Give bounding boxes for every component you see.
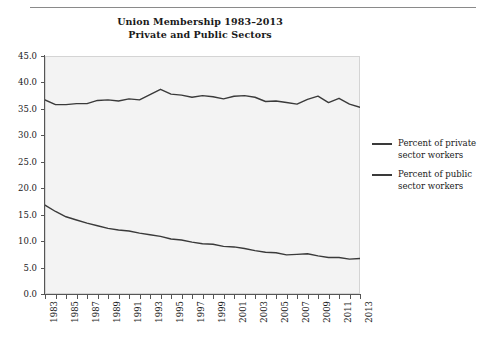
y-tick-label: 30.0 <box>18 130 37 140</box>
x-tick-mark <box>98 295 99 299</box>
x-tick-label: 2011 <box>343 301 353 323</box>
x-tick-mark <box>171 295 172 299</box>
chart-title: Union Membership 1983–2013 Private and P… <box>0 16 400 41</box>
x-tick-mark <box>56 295 57 299</box>
x-tick-label: 2001 <box>238 301 248 323</box>
x-tick-label: 1983 <box>49 301 59 323</box>
y-tick-mark <box>41 135 45 136</box>
y-tick-mark <box>41 188 45 189</box>
y-tick-label: 5.0 <box>23 263 37 273</box>
y-tick-label: 40.0 <box>18 77 37 87</box>
series-lines <box>45 56 360 294</box>
x-tick-label: 1991 <box>133 301 143 323</box>
y-tick-mark <box>41 56 45 57</box>
x-tick-mark <box>350 295 351 299</box>
x-tick-mark <box>119 295 120 299</box>
legend-item-public: Percent of public sector workers <box>372 169 482 192</box>
x-tick-mark <box>108 295 109 299</box>
x-tick-mark <box>87 295 88 299</box>
x-tick-mark <box>245 295 246 299</box>
x-tick-mark <box>287 295 288 299</box>
x-tick-mark <box>255 295 256 299</box>
y-tick-mark <box>41 82 45 83</box>
y-tick-label: 0.0 <box>23 289 37 299</box>
x-tick-mark <box>203 295 204 299</box>
x-tick-mark <box>266 295 267 299</box>
legend-label-private-line2: sector workers <box>398 150 482 162</box>
y-tick-label: 35.0 <box>18 104 37 114</box>
legend-label-public-line1: Percent of public <box>398 169 482 181</box>
x-tick-mark <box>297 295 298 299</box>
chart-title-line-2: Private and Public Sectors <box>0 29 400 42</box>
x-tick-label: 1995 <box>175 301 185 323</box>
y-tick-label: 45.0 <box>18 51 37 61</box>
legend-swatch-public-icon <box>372 174 392 176</box>
y-tick-label: 20.0 <box>18 183 37 193</box>
x-tick-mark <box>318 295 319 299</box>
legend-item-private: Percent of private sector workers <box>372 138 482 161</box>
x-tick-mark <box>45 295 46 299</box>
x-tick-label: 1999 <box>217 301 227 323</box>
chart-title-line-1: Union Membership 1983–2013 <box>0 16 400 29</box>
x-tick-label: 1997 <box>196 301 206 323</box>
header-rule <box>30 7 476 8</box>
x-tick-label: 2007 <box>301 301 311 323</box>
x-tick-label: 2005 <box>280 301 290 323</box>
y-tick-label: 10.0 <box>18 236 37 246</box>
x-tick-mark <box>161 295 162 299</box>
legend-label-public-line2: sector workers <box>398 181 482 193</box>
x-tick-mark <box>276 295 277 299</box>
x-tick-mark <box>192 295 193 299</box>
x-tick-mark <box>224 295 225 299</box>
y-tick-label: 15.0 <box>18 210 37 220</box>
x-tick-mark <box>182 295 183 299</box>
y-tick-mark <box>41 162 45 163</box>
line-private-sector <box>45 205 360 259</box>
y-tick-mark <box>41 109 45 110</box>
x-tick-mark <box>360 295 361 299</box>
x-tick-mark <box>308 295 309 299</box>
line-public-sector <box>45 89 360 107</box>
chart-legend: Percent of private sector workers Percen… <box>372 138 482 200</box>
x-tick-mark <box>234 295 235 299</box>
x-tick-label: 2013 <box>364 301 374 323</box>
x-tick-mark <box>150 295 151 299</box>
x-tick-label: 2003 <box>259 301 269 323</box>
x-tick-mark <box>66 295 67 299</box>
y-tick-label: 25.0 <box>18 157 37 167</box>
x-tick-mark <box>329 295 330 299</box>
x-tick-label: 2009 <box>322 301 332 323</box>
chart-figure: Union Membership 1983–2013 Private and P… <box>0 0 484 340</box>
x-tick-label: 1985 <box>70 301 80 323</box>
legend-label-private-line1: Percent of private <box>398 138 482 150</box>
x-tick-label: 1987 <box>91 301 101 323</box>
y-tick-mark <box>41 268 45 269</box>
x-tick-mark <box>213 295 214 299</box>
x-tick-mark <box>77 295 78 299</box>
legend-swatch-private-icon <box>372 143 392 145</box>
y-tick-mark <box>41 215 45 216</box>
y-axis-labels: 0.05.010.015.020.025.030.035.040.045.0 <box>0 0 44 340</box>
x-tick-mark <box>129 295 130 299</box>
x-tick-label: 1993 <box>154 301 164 323</box>
x-tick-label: 1989 <box>112 301 122 323</box>
x-tick-mark <box>339 295 340 299</box>
x-tick-mark <box>140 295 141 299</box>
y-tick-mark <box>41 241 45 242</box>
